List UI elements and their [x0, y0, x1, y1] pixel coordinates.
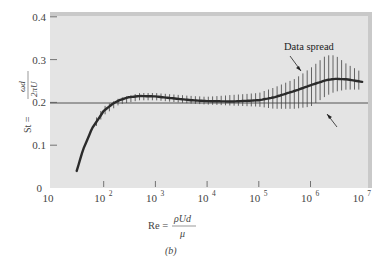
- y-tick-label: 0.4: [32, 11, 46, 23]
- svg-text:Re =: Re =: [148, 220, 168, 231]
- x-tick-label: 10: [249, 192, 261, 204]
- y-tick-label: 0.3: [32, 54, 46, 66]
- svg-text:4: 4: [212, 189, 216, 198]
- strouhal-chart: 00.10.20.30.4 10102103104105106107 Data …: [0, 0, 391, 261]
- y-tick-label: 0.2: [32, 96, 46, 108]
- figure-caption: (b): [165, 245, 177, 257]
- svg-text:ωd: ωd: [17, 81, 27, 92]
- x-axis-label: Re = ρUd μ: [148, 213, 196, 239]
- svg-text:μ: μ: [179, 228, 185, 239]
- svg-text:5: 5: [264, 189, 268, 198]
- svg-text:2: 2: [109, 189, 113, 198]
- annotation-data-spread: Data spread: [284, 41, 335, 52]
- x-tick-label: 10: [146, 192, 158, 204]
- x-tick-label: 10: [43, 192, 55, 204]
- svg-text:3: 3: [160, 189, 164, 198]
- svg-text:St =: St =: [22, 116, 33, 133]
- svg-text:2πU: 2πU: [29, 81, 39, 97]
- svg-text:6: 6: [316, 189, 320, 198]
- svg-text:7: 7: [367, 189, 371, 198]
- svg-text:ρUd: ρUd: [173, 213, 192, 224]
- x-tick-label: 10: [198, 192, 210, 204]
- y-tick-label: 0.1: [32, 139, 46, 151]
- x-tick-label: 10: [353, 192, 365, 204]
- x-tick-label: 10: [301, 192, 313, 204]
- x-tick-label: 10: [94, 192, 106, 204]
